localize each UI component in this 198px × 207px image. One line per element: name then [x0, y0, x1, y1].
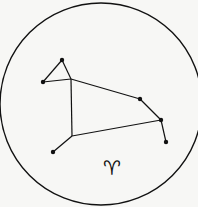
constellation-line: [72, 120, 161, 136]
constellation-line: [71, 79, 140, 99]
constellation-diagram: ♈: [0, 0, 198, 207]
frame-circle: [0, 3, 198, 205]
star-bottom-left: [51, 150, 55, 154]
star-left: [41, 80, 45, 84]
constellation-line: [43, 60, 62, 82]
constellation-line: [53, 136, 72, 152]
aries-symbol-icon: ♈: [103, 156, 121, 180]
star-right: [159, 118, 163, 122]
constellation-line: [62, 60, 71, 79]
star-mid-right: [138, 97, 142, 101]
constellation-line: [140, 99, 161, 120]
constellation-line: [71, 79, 72, 136]
star-top: [60, 58, 64, 62]
constellation-line: [161, 120, 166, 142]
constellation-line: [43, 79, 71, 82]
star-far-right: [164, 140, 168, 144]
constellation-lines: [43, 60, 166, 152]
star-points: [41, 58, 168, 154]
